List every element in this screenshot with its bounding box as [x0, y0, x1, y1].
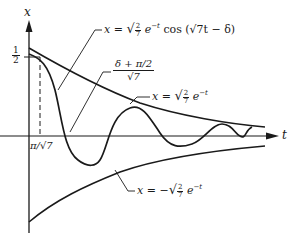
damped-oscillation-diagram: x t 1 2 π/√7 x = √27 e−t cos (√7t − δ) δ… — [0, 0, 290, 244]
t-axis-arrow-icon — [266, 133, 279, 140]
x-axis-arrow-icon — [26, 20, 33, 32]
half-tick-label: 1 2 — [12, 46, 20, 65]
pi-over-root7-label: π/√7 — [30, 141, 53, 151]
t-axis-label: t — [282, 129, 287, 141]
lower-envelope-label: x = −√27 e−t — [137, 183, 202, 199]
curve-equation-label: x = √27 e−t cos (√7t − δ) — [104, 22, 235, 38]
crossing-time-label: δ + π/2 √7 — [113, 58, 154, 83]
x-axis-label: x — [24, 6, 31, 18]
curve-label-leader — [58, 30, 102, 90]
upper-envelope-label: x = √27 e−t — [152, 89, 208, 105]
